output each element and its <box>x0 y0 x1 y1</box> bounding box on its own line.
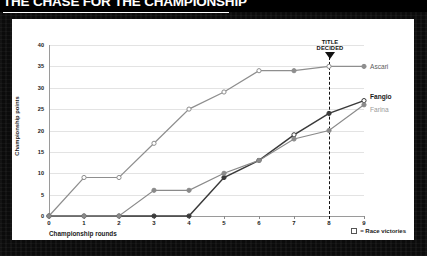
page-title: THE CHASE FOR THE CHAMPIONSHIP <box>3 0 247 8</box>
data-point <box>47 214 51 218</box>
data-point-victory <box>362 99 366 103</box>
data-point <box>292 137 296 141</box>
open-square-icon <box>351 228 357 234</box>
data-point <box>222 175 226 179</box>
infographic-root: THE CHASE FOR THE CHAMPIONSHIP Champions… <box>0 0 427 256</box>
data-point <box>117 214 121 218</box>
chart-card: Championship points Championship rounds … <box>12 19 414 240</box>
data-point <box>187 214 191 218</box>
legend: = Race victories <box>351 228 406 234</box>
series-label-farina: Farina <box>370 106 389 113</box>
data-point <box>152 188 156 192</box>
data-point <box>362 64 366 68</box>
series-layer <box>12 19 414 240</box>
data-point <box>257 158 261 162</box>
series-line-fangio <box>49 101 364 216</box>
plot-area: Championship points Championship rounds … <box>12 19 414 240</box>
data-point <box>152 214 156 218</box>
legend-label: = Race victories <box>360 228 406 234</box>
data-point-victory <box>327 64 331 68</box>
data-point <box>327 111 331 115</box>
data-point-victory <box>222 90 226 94</box>
data-point <box>187 188 191 192</box>
headline-underline <box>3 12 229 13</box>
data-point <box>222 171 226 175</box>
data-point <box>327 128 331 132</box>
data-point-victory <box>187 107 191 111</box>
series-label-fangio: Fangio <box>370 93 392 100</box>
data-point-victory <box>257 69 261 73</box>
data-point <box>82 214 86 218</box>
data-point-victory <box>82 175 86 179</box>
data-point <box>362 103 366 107</box>
data-point <box>292 69 296 73</box>
series-label-ascari: Ascari <box>370 63 388 70</box>
headline-band: THE CHASE FOR THE CHAMPIONSHIP <box>0 0 427 12</box>
data-point-victory <box>292 133 296 137</box>
data-point-victory <box>152 141 156 145</box>
data-point-victory <box>117 175 121 179</box>
series-line-ascari <box>49 66 364 216</box>
